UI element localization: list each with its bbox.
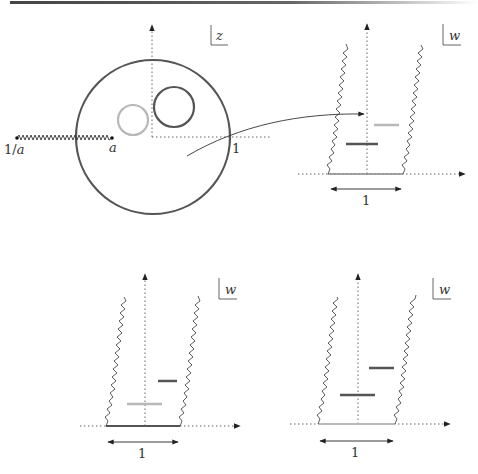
w-br-left-zigzag	[317, 297, 338, 424]
dark-inner-circle	[154, 87, 194, 127]
w-bl-width-label: 1	[138, 446, 146, 461]
z-plane-label: z	[215, 28, 223, 43]
mapping-arrow	[187, 114, 364, 156]
z-plane-panel: 1/a a 1 z	[4, 25, 272, 214]
conformal-map-diagram: 1/a a 1 z 1 w 1 w	[0, 0, 478, 474]
w-top-left-zigzag	[327, 44, 348, 174]
w-plane-bottom-right-panel: 1 w	[290, 274, 451, 460]
w-bl-right-zigzag	[179, 296, 200, 426]
w-top-right-zigzag	[402, 45, 423, 174]
label-a: a	[109, 140, 117, 155]
top-rule	[10, 1, 478, 4]
point-1-over-a	[15, 136, 19, 140]
label-1-over-a: 1/a	[4, 142, 24, 157]
w-plane-bottom-left-panel: 1 w	[80, 274, 240, 461]
label-unit: 1	[232, 141, 240, 156]
light-inner-circle	[118, 105, 148, 135]
w-plane-top-panel: 1 w	[298, 24, 465, 208]
branch-cut-zigzag	[17, 135, 112, 140]
w-br-right-zigzag	[394, 295, 416, 424]
w-top-plane-label: w	[449, 28, 460, 43]
w-bl-left-zigzag	[105, 297, 126, 426]
w-top-width-label: 1	[362, 193, 370, 208]
w-bl-plane-label: w	[225, 282, 236, 297]
w-br-width-label: 1	[351, 445, 359, 460]
w-br-plane-label: w	[439, 282, 450, 297]
